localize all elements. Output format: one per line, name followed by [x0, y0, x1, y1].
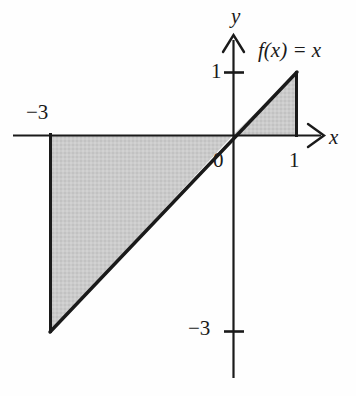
y-tick-label-neg3: −3	[188, 318, 210, 339]
y-tick-label-1: 1	[211, 61, 222, 82]
figure-canvas: y x f(x) = x −3 1 −3 0 1	[0, 0, 356, 396]
origin-label: 0	[213, 150, 224, 171]
function-label: f(x) = x	[258, 40, 321, 61]
x-tick-label-neg3: −3	[26, 102, 48, 123]
x-tick-label-1: 1	[289, 150, 300, 171]
x-axis-label: x	[329, 127, 338, 148]
y-axis-label: y	[231, 6, 240, 27]
